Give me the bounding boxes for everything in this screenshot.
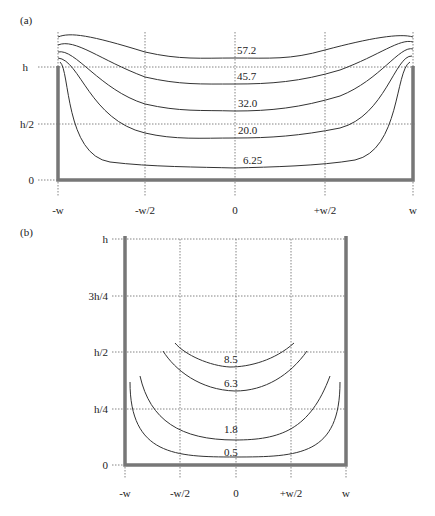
contour-label: 45.7 bbox=[237, 70, 257, 82]
x-tick-label: w bbox=[409, 204, 417, 216]
y-tick-label: h/2 bbox=[20, 118, 34, 130]
panel-a: (a) h h/2 0 -w -w/2 0 +w/2 w 57.2 45.7 3… bbox=[20, 14, 417, 216]
contour-label: 0.5 bbox=[224, 446, 238, 458]
y-tick-label: h/4 bbox=[94, 403, 109, 415]
x-tick-label: +w/2 bbox=[314, 204, 337, 216]
x-tick-label: -w bbox=[119, 487, 131, 499]
x-tick-label: -w bbox=[52, 204, 64, 216]
x-tick-label: +w/2 bbox=[280, 487, 303, 499]
contour-57.2 bbox=[58, 35, 413, 58]
y-tick-label: h bbox=[103, 233, 109, 245]
contour-label: 57.2 bbox=[237, 44, 256, 56]
x-tick-label: 0 bbox=[232, 204, 238, 216]
contour-label: 8.5 bbox=[224, 353, 238, 365]
y-tick-label: h bbox=[23, 61, 29, 73]
x-tick-label: 0 bbox=[233, 487, 239, 499]
panel-b: (b) h 3h/4 h/2 h/4 0 -w -w/2 0 +w/2 w 8.… bbox=[20, 226, 350, 499]
y-tick-label: 0 bbox=[29, 174, 35, 186]
y-tick-label: h/2 bbox=[94, 346, 108, 358]
y-tick-label: 3h/4 bbox=[88, 290, 108, 302]
contour-label: 1.8 bbox=[224, 423, 238, 435]
contour-label: 20.0 bbox=[238, 124, 258, 136]
panel-b-label: (b) bbox=[20, 226, 33, 239]
contour-label: 6.3 bbox=[224, 377, 238, 389]
contour-label: 6.25 bbox=[243, 154, 263, 166]
contour-45.7 bbox=[58, 41, 413, 84]
x-tick-label: w bbox=[342, 487, 350, 499]
trench-outline bbox=[58, 66, 413, 180]
panel-a-label: (a) bbox=[20, 14, 33, 27]
contour-label: 32.0 bbox=[238, 97, 258, 109]
y-tick-label: 0 bbox=[103, 459, 109, 471]
figure: (a) h h/2 0 -w -w/2 0 +w/2 w 57.2 45.7 3… bbox=[0, 0, 435, 516]
x-tick-label: -w/2 bbox=[135, 204, 155, 216]
x-tick-label: -w/2 bbox=[170, 487, 190, 499]
